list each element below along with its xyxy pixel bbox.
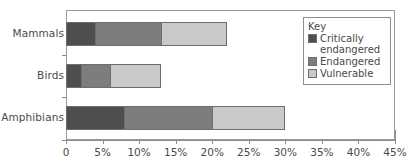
legend-swatch-critically-endangered <box>308 34 317 43</box>
legend-swatch-endangered <box>308 57 317 66</box>
legend-item-critically-endangered: Critically endangered <box>308 33 386 55</box>
legend-label-endangered: Endangered <box>320 56 380 67</box>
y-axis-category-labels: Mammals Birds Amphibians <box>0 0 64 166</box>
bar-segment-endangered <box>124 106 212 130</box>
bar-segment-critically-endangered <box>66 106 124 130</box>
x-tick-label-6: 30% <box>274 146 297 158</box>
legend-label-critically-endangered: Critically endangered <box>320 33 386 55</box>
x-tick-label-5: 25% <box>237 146 260 158</box>
legend-label-vulnerable: Vulnerable <box>320 68 373 79</box>
x-tick-2 <box>139 140 140 144</box>
x-tick-1 <box>103 140 104 144</box>
legend-title: Key <box>308 21 386 32</box>
bar-birds <box>66 64 161 88</box>
legend-item-vulnerable: Vulnerable <box>308 68 386 79</box>
x-tick-label-7: 35% <box>310 146 333 158</box>
x-tick-9 <box>395 140 396 144</box>
bar-segment-critically-endangered <box>66 64 81 88</box>
x-tick-label-4: 20% <box>201 146 224 158</box>
legend-swatch-vulnerable <box>308 69 317 78</box>
x-tick-0 <box>66 140 67 144</box>
x-tick-4 <box>212 140 213 144</box>
y-label-mammals: Mammals <box>0 27 64 39</box>
x-tick-3 <box>176 140 177 144</box>
bar-amphibians <box>66 106 285 130</box>
x-tick-8 <box>358 140 359 144</box>
bar-segment-endangered <box>81 64 110 88</box>
x-tick-label-8: 40% <box>347 146 370 158</box>
x-tick-5 <box>249 140 250 144</box>
x-tick-label-3: 15% <box>164 146 187 158</box>
x-tick-label-1: 5% <box>94 146 111 158</box>
x-tick-7 <box>322 140 323 144</box>
bar-segment-vulnerable <box>161 22 227 46</box>
x-tick-label-0: 0 <box>63 146 70 158</box>
y-tick-1 <box>62 97 66 98</box>
stacked-bar-chart: Mammals Birds Amphibians 05%10%15%20%25%… <box>0 0 419 166</box>
x-tick-label-2: 10% <box>127 146 150 158</box>
bar-segment-vulnerable <box>212 106 285 130</box>
bar-segment-endangered <box>95 22 161 46</box>
y-label-birds: Birds <box>0 69 64 81</box>
legend-item-endangered: Endangered <box>308 56 386 67</box>
legend-box: Key Critically endangered Endangered Vul… <box>303 17 391 85</box>
x-tick-label-9: 45% <box>383 146 406 158</box>
x-axis-line <box>66 140 396 141</box>
y-label-amphibians: Amphibians <box>0 111 64 123</box>
bar-segment-critically-endangered <box>66 22 95 46</box>
bar-segment-vulnerable <box>110 64 161 88</box>
y-tick-0 <box>62 55 66 56</box>
x-tick-6 <box>285 140 286 144</box>
bar-mammals <box>66 22 227 46</box>
